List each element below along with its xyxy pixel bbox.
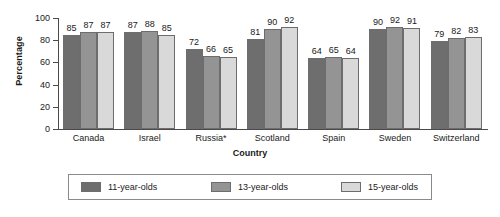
bar <box>386 27 403 129</box>
bar <box>342 58 359 129</box>
bar-value-label: 83 <box>461 25 485 35</box>
bar <box>141 31 158 129</box>
bar <box>465 37 482 129</box>
bar-value-label: 64 <box>339 46 363 56</box>
y-tick-label: 60 <box>22 57 50 67</box>
y-axis-tick <box>53 40 59 41</box>
bar-group <box>369 18 420 129</box>
bar <box>203 56 220 129</box>
bar-value-label: 91 <box>400 16 424 26</box>
y-tick-label: 20 <box>22 102 50 112</box>
bar <box>325 57 342 129</box>
bar <box>308 58 325 129</box>
legend-swatch-icon <box>211 182 231 192</box>
bar-group <box>124 18 175 129</box>
bar-value-label: 92 <box>277 15 301 25</box>
bar <box>158 35 175 129</box>
y-tick-label: 80 <box>22 35 50 45</box>
y-axis-tick <box>53 129 59 130</box>
bar <box>124 32 141 129</box>
bar <box>63 35 80 129</box>
legend-label: 11-year-olds <box>108 182 157 192</box>
bar <box>403 28 420 129</box>
bar-group <box>308 18 359 129</box>
bar-value-label: 65 <box>216 45 240 55</box>
chart-legend: 11-year-olds13-year-olds15-year-olds <box>68 174 432 200</box>
x-axis-line <box>58 129 488 130</box>
bar <box>264 29 281 129</box>
bar <box>448 38 465 129</box>
plot-area <box>59 18 488 129</box>
y-tick-label: 100 <box>22 13 50 23</box>
bar <box>186 49 203 129</box>
legend-label: 15-year-olds <box>368 182 418 192</box>
bar <box>431 41 448 129</box>
bar-value-label: 85 <box>155 23 179 33</box>
legend-item[interactable]: 11-year-olds <box>81 182 157 192</box>
x-axis-title: Country <box>0 148 500 158</box>
x-category-label: Switzerland <box>411 133 500 143</box>
bar <box>369 29 386 129</box>
bar-value-label: 87 <box>94 20 118 30</box>
bar-chart: Percentage 020406080100 CanadaIsraelRuss… <box>0 0 500 217</box>
bar <box>220 57 237 129</box>
bar <box>80 32 97 129</box>
y-tick-label: 40 <box>22 80 50 90</box>
y-axis-tick <box>53 85 59 86</box>
y-axis-tick <box>53 62 59 63</box>
legend-swatch-icon <box>81 182 101 192</box>
bar-group <box>63 18 114 129</box>
y-axis-tick-labels: 020406080100 <box>20 18 50 129</box>
bar <box>247 39 264 129</box>
legend-item[interactable]: 13-year-olds <box>211 182 288 192</box>
legend-swatch-icon <box>341 182 361 192</box>
y-axis-tick <box>53 18 59 19</box>
bar-group <box>186 18 237 129</box>
legend-item[interactable]: 15-year-olds <box>341 182 418 192</box>
legend-label: 13-year-olds <box>238 182 288 192</box>
y-axis-tick <box>53 107 59 108</box>
bar <box>97 32 114 129</box>
bar-value-label: 81 <box>243 27 267 37</box>
bar <box>281 27 298 129</box>
